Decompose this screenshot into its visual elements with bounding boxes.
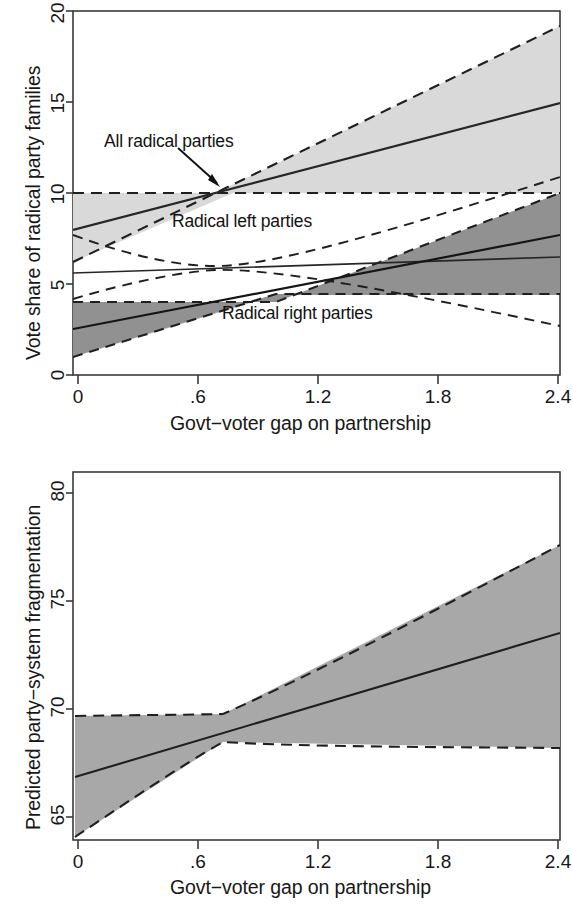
top-x-tick-2: 1.2 (296, 386, 340, 408)
bottom-x-axis-label: Govt−voter gap on partnership (14, 876, 573, 899)
top-x-tick-4: 2.4 (536, 386, 573, 408)
chart-panel-bottom: Predicted party−system fragmentation 65 … (0, 440, 573, 905)
annotation-radical-left-parties: Radical left parties (172, 211, 312, 232)
bottom-x-tick-2: 1.2 (296, 851, 340, 873)
bottom-plot-area (0, 440, 573, 905)
top-x-tick-3: 1.8 (416, 386, 460, 408)
top-x-tick-1: .6 (176, 386, 220, 408)
top-x-axis-label: Govt−voter gap on partnership (14, 412, 573, 435)
top-x-tick-0: 0 (56, 386, 100, 408)
figure-page: Vote share of radical party families 0 5… (0, 0, 573, 905)
bottom-x-tick-3: 1.8 (416, 851, 460, 873)
fragmentation-ci-band (75, 545, 560, 837)
bottom-x-tick-0: 0 (56, 851, 100, 873)
annotation-all-radical-parties: All radical parties (104, 131, 233, 152)
bottom-x-tick-4: 2.4 (536, 851, 573, 873)
bottom-x-tick-1: .6 (176, 851, 220, 873)
annotation-radical-right-parties: Radical right parties (222, 303, 372, 324)
chart-panel-top: Vote share of radical party families 0 5… (0, 0, 573, 440)
